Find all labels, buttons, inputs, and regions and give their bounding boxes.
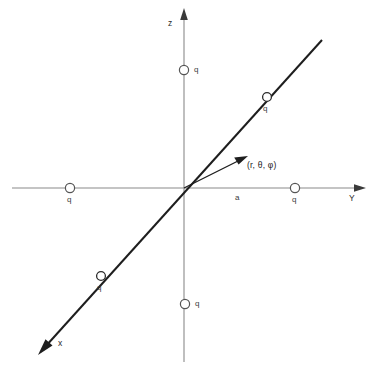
z-axis-label: z [168,19,172,28]
charge-label-y-negative: q [67,196,72,204]
position-vector-line [184,160,240,188]
charge-marker-x-positive [97,272,106,281]
y-axis-arrowhead [354,184,366,192]
charge-marker-x-negative [263,93,272,102]
position-vector-arrowhead [234,156,248,164]
charge-label-y-positive: q [292,196,297,204]
charge-marker-y-positive [290,183,299,192]
charge-marker-z-positive [179,65,188,74]
figure-canvas: z Y x q q q q q q (r, θ, φ) a [0,0,375,369]
charge-label-x-positive: q [97,284,102,292]
z-axis-arrowhead [180,8,188,20]
distance-label: a [235,194,240,202]
diagram-svg [0,0,375,369]
charge-marker-z-negative [180,299,189,308]
x-axis-label: x [58,339,62,348]
y-axis-label: Y [349,194,355,203]
charge-label-z-positive: q [194,66,199,74]
charge-marker-y-negative [65,183,74,192]
field-point-label: (r, θ, φ) [247,161,277,170]
charge-label-z-negative: q [195,300,200,308]
charge-label-x-negative: q [263,105,268,113]
